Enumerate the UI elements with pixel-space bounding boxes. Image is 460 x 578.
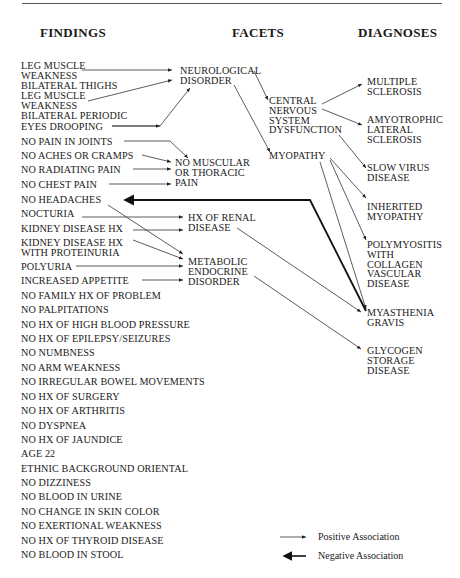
finding-no-pain-joints: NO PAIN IN JOINTS: [21, 137, 113, 147]
finding-nocturia: NOCTURIA: [21, 209, 74, 219]
finding-no-headaches: NO HEADACHES: [21, 195, 101, 205]
diagnosis-myasthenia-gravis: MYASTHENIAGRAVIS: [367, 308, 434, 328]
finding-no-dizziness: NO DIZZINESS: [21, 478, 91, 488]
finding-leg-weakness-periodic: LEG MUSCLEWEAKNESSBILATERAL PERIODIC: [21, 91, 127, 120]
facet-neurological-disorder: NEUROLOGICALDISORDER: [180, 66, 261, 86]
finding-no-blood-stool: NO BLOOD IN STOOL: [21, 550, 124, 560]
finding-no-high-bp: NO HX OF HIGH BLOOD PRESSURE: [21, 320, 190, 330]
finding-no-arm-weakness: NO ARM WEAKNESS: [21, 363, 120, 373]
diagnosis-als: AMYOTROPHICLATERALSCLEROSIS: [367, 115, 443, 144]
facet-no-muscular-thoracic-pain: NO MUSCULAROR THORACICPAIN: [175, 158, 250, 187]
finding-no-chest-pain: NO CHEST PAIN: [21, 180, 97, 190]
finding-no-epilepsy: NO HX OF EPILEPSY/SEIZURES: [21, 334, 170, 344]
diagnosis-polymyositis: POLYMYOSITISWITHCOLLAGENVASCULARDISEASE: [367, 240, 442, 289]
diagnosis-inherited-myopathy: INHERITEDMYOPATHY: [367, 202, 423, 222]
finding-no-jaundice: NO HX OF JAUNDICE: [21, 435, 123, 445]
finding-leg-weakness-thighs: LEG MUSCLEWEAKNESSBILATERAL THIGHS: [21, 61, 117, 90]
finding-kidney-disease-hx: KIDNEY DISEASE HX: [21, 224, 123, 234]
facet-hx-renal-disease: HX OF RENALDISEASE: [188, 213, 256, 233]
diagnosis-glycogen-storage: GLYCOGENSTORAGEDISEASE: [367, 346, 423, 375]
legend-negative: Negative Association: [318, 550, 403, 561]
finding-no-irregular-bowel: NO IRREGULAR BOWEL MOVEMENTS: [21, 377, 205, 387]
finding-ethnic-background: ETHNIC BACKGROUND ORIENTAL: [21, 464, 188, 474]
finding-no-dyspnea: NO DYSPNEA: [21, 421, 86, 431]
finding-no-radiating-pain: NO RADIATING PAIN: [21, 165, 121, 175]
legend-positive: Positive Association: [318, 531, 399, 542]
finding-no-exertional-weakness: NO EXERTIONAL WEAKNESS: [21, 521, 162, 531]
finding-no-skin-color-change: NO CHANGE IN SKIN COLOR: [21, 507, 160, 517]
finding-eyes-drooping: EYES DROOPING: [21, 122, 103, 132]
diagnosis-multiple-sclerosis: MULTIPLESCLEROSIS: [367, 77, 422, 97]
finding-increased-appetite: INCREASED APPETITE: [21, 276, 129, 286]
finding-kidney-proteinuria: KIDNEY DISEASE HXWITH PROTEINURIA: [21, 238, 123, 258]
finding-no-numbness: NO NUMBNESS: [21, 348, 95, 358]
facet-cns-dysfunction: CENTRALNERVOUSSYSTEMDYSFUNCTION: [269, 96, 342, 135]
finding-age: AGE 22: [21, 449, 55, 459]
finding-no-surgery: NO HX OF SURGERY: [21, 392, 120, 402]
finding-no-palpitations: NO PALPITATIONS: [21, 305, 109, 315]
diagnosis-slow-virus: SLOW VIRUSDISEASE: [367, 163, 430, 183]
facet-myopathy: MYOPATHY: [269, 151, 325, 161]
finding-no-blood-urine: NO BLOOD IN URINE: [21, 492, 122, 502]
finding-polyuria: POLYURIA: [21, 262, 72, 272]
facet-metabolic-endocrine: METABOLICENDOCRINEDISORDER: [188, 257, 248, 286]
finding-no-thyroid: NO HX OF THYROID DISEASE: [21, 536, 164, 546]
finding-no-family-hx: NO FAMILY HX OF PROBLEM: [21, 291, 161, 301]
finding-no-aches: NO ACHES OR CRAMPS: [21, 151, 133, 161]
finding-no-arthritis: NO HX OF ARTHRITIS: [21, 406, 125, 416]
